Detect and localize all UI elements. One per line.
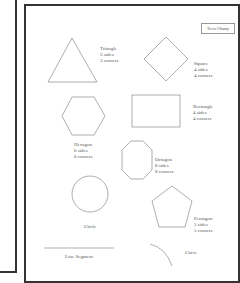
rectangle-shape (132, 95, 180, 127)
previous-page-edge (0, 0, 17, 273)
octagon-label: Octagon8 sides8 corners (155, 157, 173, 175)
pentagon-shape (152, 186, 192, 227)
curve-shape (150, 244, 172, 266)
square-shape (144, 37, 188, 81)
hexagon-shape (62, 97, 105, 135)
curve-label: Curve (185, 250, 197, 256)
square-label: Square4 sides4 corners (194, 61, 212, 79)
rectangle-label: Rectangle4 sides4 corners (193, 104, 213, 122)
octagon-shape (122, 141, 152, 179)
pentagon-label: Pentagon5 sides5 corners (194, 216, 213, 234)
hexagon-label: Hexagon6 sides6 corners (74, 142, 92, 160)
triangle-shape (48, 38, 97, 82)
triangle-label: Triangle3 sides3 corners (100, 46, 118, 64)
circle-shape (72, 176, 108, 212)
line-segment-label: Line Segment (56, 254, 102, 260)
worksheet-page: Trevo Obamy Triangle3 sides3 corners Squ… (24, 4, 240, 283)
circle-label: Circle (78, 224, 102, 230)
shapes-drawing (26, 6, 238, 281)
